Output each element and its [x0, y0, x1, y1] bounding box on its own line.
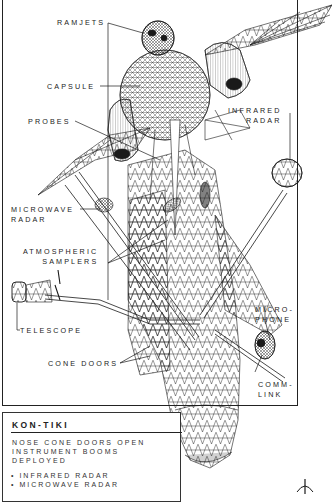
caption-item: MICROWAVE RADAR: [11, 480, 119, 489]
infrared-radar-sphere: [272, 159, 302, 187]
caption-item-list: INFRARED RADAR MICROWAVE RADAR: [11, 471, 119, 489]
caption-divider: [11, 432, 182, 433]
label-probes: PROBES: [28, 117, 71, 127]
label-comm-link: COMM- LINK: [258, 380, 294, 399]
label-microwave-radar: MICROWAVE RADAR: [11, 205, 74, 224]
label-capsule: CAPSULE: [47, 82, 95, 92]
compass-mark: [297, 479, 313, 494]
caption-title: KON-TIKI: [12, 420, 69, 430]
caption-description: NOSE CONE DOORS OPEN INSTRUMENT BOOMS DE…: [12, 438, 145, 466]
microwave-radar-unit: [95, 198, 113, 212]
label-ramjets: RAMJETS: [57, 18, 105, 28]
label-microphone: MICRO- PHONE: [255, 305, 294, 324]
caption-item: INFRARED RADAR: [11, 471, 119, 480]
caption-box: KON-TIKI NOSE CONE DOORS OPEN INSTRUMENT…: [2, 412, 181, 502]
label-telescope: TELESCOPE: [20, 326, 82, 336]
ramjet-top: [142, 21, 174, 55]
ramjet-right: [205, 43, 250, 99]
label-cone-doors: CONE DOORS: [48, 359, 118, 369]
label-infrared-radar: INFRARED RADAR: [228, 106, 282, 125]
comm-link-dish: [255, 331, 275, 359]
label-atmospheric-samplers: ATMOSPHERIC SAMPLERS: [23, 247, 98, 266]
telescope-unit: [12, 270, 60, 302]
